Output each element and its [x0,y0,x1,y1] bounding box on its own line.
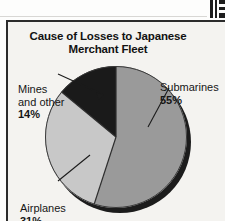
top-divider-rule [0,16,207,17]
fragment-bar [210,0,213,18]
fragment-bar [219,13,225,18]
chart-title: Cause of Losses to Japanese Merchant Fle… [10,30,206,55]
label-submarines-percent: 55% [160,94,219,107]
label-mines-and-other: Mines and other 14% [18,83,64,121]
label-airplanes: Airplanes 31% [20,202,66,221]
cropped-page-fragment [209,0,225,18]
fragment-bar [219,0,225,4]
label-mines-line-1: Mines [18,83,64,96]
label-airplanes-name: Airplanes [20,202,66,215]
label-submarines: Submarines 55% [160,81,219,106]
chart-title-line-1: Cause of Losses to Japanese [10,30,206,43]
label-airplanes-percent: 31% [20,215,66,222]
chart-title-line-2: Merchant Fleet [10,43,206,56]
label-mines-percent: 14% [18,108,64,121]
fragment-bar [219,7,225,10]
chart-panel: Cause of Losses to Japanese Merchant Fle… [6,20,225,221]
label-submarines-name: Submarines [160,81,219,94]
fragment-bar [215,0,217,18]
label-mines-line-2: and other [18,96,64,109]
